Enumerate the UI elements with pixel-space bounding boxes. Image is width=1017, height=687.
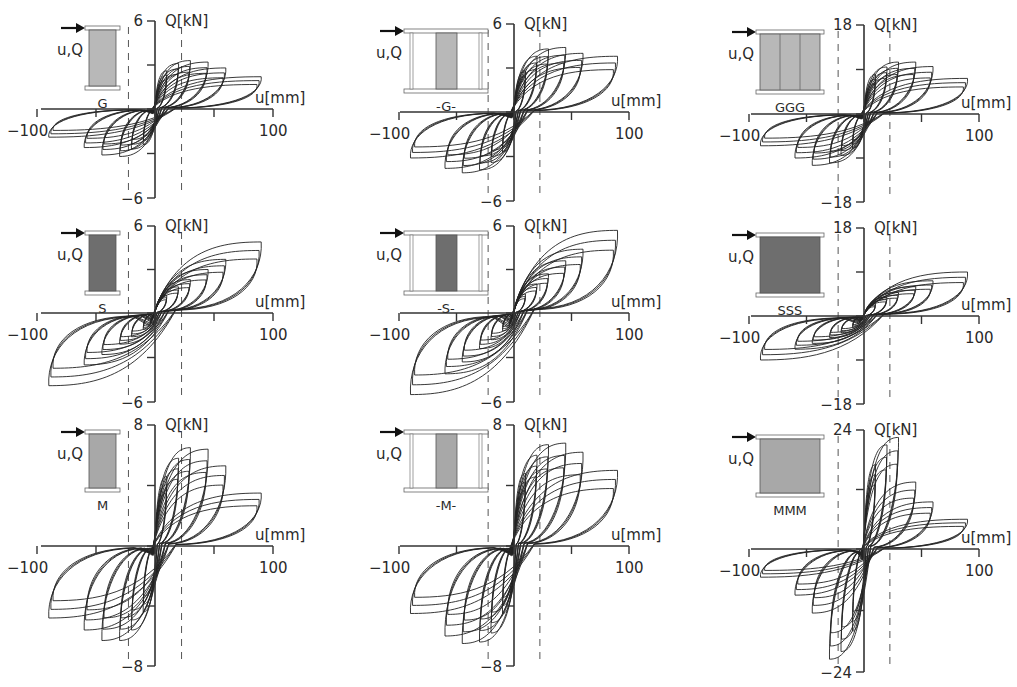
y-tick-label-max: 18: [833, 16, 852, 34]
y-axis-label: Q[kN]: [165, 12, 208, 30]
y-tick-label-min: −8: [121, 658, 143, 676]
x-tick-label-min: −100: [7, 559, 48, 577]
specimen-inset: u,Q-M-: [376, 427, 488, 513]
wall-panel: [436, 33, 457, 89]
x-tick-label-max: 100: [615, 326, 644, 344]
x-tick-label-max: 100: [965, 127, 994, 145]
y-axis-label: Q[kN]: [524, 15, 567, 33]
specimen-inset: u,QSSS: [728, 230, 824, 318]
specimen-label: -G-: [436, 99, 456, 114]
y-tick-label-max: 6: [133, 217, 143, 235]
arrow-head-icon: [395, 228, 404, 238]
panel-SSS: −100100u[mm]18−18Q[kN]u,QSSS: [719, 219, 1011, 414]
x-tick-label-max: 100: [259, 326, 288, 344]
y-axis-label: Q[kN]: [165, 416, 208, 434]
wall-panel: [436, 434, 457, 488]
y-tick-label-min: −18: [820, 194, 852, 212]
panel-dashSdash: −100100u[mm]6−6Q[kN]u,Q-S-: [369, 217, 661, 412]
frame-post-right: [479, 235, 482, 291]
top-plate: [756, 233, 824, 237]
panel-GGG: −100100u[mm]18−18Q[kN]u,QGGG: [719, 16, 1011, 212]
y-tick-label-min: −8: [480, 658, 502, 676]
specimen-label: G: [97, 96, 107, 111]
x-axis-label: u[mm]: [611, 526, 661, 544]
specimen-inset: u,QGGG: [728, 27, 824, 115]
y-tick-label-max: 8: [492, 416, 502, 434]
frame-post-left: [410, 235, 413, 291]
x-tick-label-max: 100: [615, 125, 644, 143]
x-tick-label-min: −100: [7, 122, 48, 140]
x-axis-label: u[mm]: [255, 293, 305, 311]
panel-M: −100100u[mm]8−8Q[kN]u,QM: [7, 416, 305, 676]
specimen-inset: u,Q-G-: [376, 26, 488, 114]
wall-panel: [89, 235, 116, 291]
x-axis-label: u[mm]: [961, 296, 1011, 314]
load-label: u,Q: [728, 450, 754, 468]
specimen-inset: u,QG: [57, 23, 120, 111]
load-label: u,Q: [728, 248, 754, 266]
arrow-head-icon: [395, 26, 404, 36]
y-tick-label-max: 6: [492, 217, 502, 235]
x-axis-label: u[mm]: [611, 92, 661, 110]
load-label: u,Q: [376, 445, 402, 463]
x-tick-label-min: −100: [369, 125, 410, 143]
y-axis-label: Q[kN]: [874, 16, 917, 34]
panel-dashGdash: −100100u[mm]6−6Q[kN]u,Q-G-: [369, 15, 661, 211]
top-plate: [756, 30, 824, 34]
top-plate: [85, 430, 120, 434]
load-label: u,Q: [376, 44, 402, 62]
frame-post-left: [410, 434, 413, 488]
wall-panel: [89, 434, 116, 488]
x-tick-label-min: −100: [7, 326, 48, 344]
bottom-plate: [756, 90, 824, 94]
y-axis-label: Q[kN]: [874, 219, 917, 237]
y-tick-label-min: −24: [820, 664, 852, 682]
frame-post-right: [479, 434, 482, 488]
arrow-head-icon: [76, 427, 85, 437]
arrow-head-icon: [76, 228, 85, 238]
y-tick-label-max: 24: [833, 421, 852, 439]
top-plate: [85, 26, 120, 30]
x-tick-label-min: −100: [719, 329, 760, 347]
bottom-plate: [756, 493, 824, 497]
x-axis-label: u[mm]: [255, 526, 305, 544]
top-plate: [404, 29, 488, 33]
y-axis-label: Q[kN]: [524, 416, 567, 434]
panel-MMM: −100100u[mm]24−24Q[kN]u,QMMM: [719, 421, 1011, 682]
arrow-head-icon: [76, 23, 85, 33]
bottom-plate: [85, 86, 120, 90]
y-tick-label-min: −6: [480, 394, 502, 412]
bottom-plate: [404, 488, 488, 492]
specimen-label: MMM: [773, 503, 807, 518]
bottom-plate: [85, 488, 120, 492]
bottom-plate: [404, 291, 488, 295]
load-label: u,Q: [376, 246, 402, 264]
x-tick-label-max: 100: [259, 559, 288, 577]
y-tick-label-min: −18: [820, 396, 852, 414]
y-tick-label-max: 18: [833, 219, 852, 237]
specimen-label: S: [98, 301, 106, 316]
arrow-head-icon: [747, 230, 756, 240]
wall-panel: [760, 34, 820, 90]
load-label: u,Q: [57, 41, 83, 59]
top-plate: [404, 430, 488, 434]
panel-G: −100100u[mm]6−6Q[kN]u,QG: [7, 12, 305, 208]
frame-post-left: [410, 33, 413, 89]
hysteresis-figure: −100100u[mm]6−6Q[kN]u,QG−100100u[mm]6−6Q…: [0, 0, 1017, 687]
load-label: u,Q: [57, 246, 83, 264]
wall-panel: [760, 237, 820, 293]
x-axis-label: u[mm]: [961, 529, 1011, 547]
y-axis-label: Q[kN]: [874, 421, 917, 439]
y-tick-label-max: 6: [133, 12, 143, 30]
load-label: u,Q: [57, 445, 83, 463]
panel-grid: −100100u[mm]6−6Q[kN]u,QG−100100u[mm]6−6Q…: [7, 12, 1011, 682]
specimen-label: M: [97, 498, 108, 513]
x-tick-label-max: 100: [965, 562, 994, 580]
specimen-label: GGG: [775, 100, 805, 115]
y-tick-label-min: −6: [121, 394, 143, 412]
specimen-inset: u,QM: [57, 427, 120, 513]
wall-panel: [89, 30, 116, 86]
bottom-plate: [85, 291, 120, 295]
arrow-head-icon: [395, 427, 404, 437]
x-tick-label-min: −100: [719, 562, 760, 580]
